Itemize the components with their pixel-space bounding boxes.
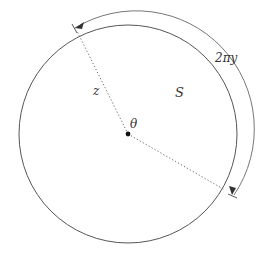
tick-start: [72, 24, 77, 33]
circle-diagram: z S θ 2πy: [0, 0, 258, 258]
arrowhead-start: [75, 22, 84, 29]
radius-line-1: [77, 31, 128, 134]
arc-length-label: 2πy: [214, 51, 238, 65]
region-label: S: [175, 85, 184, 100]
radius-line-2: [128, 134, 225, 190]
arc-length-arrow: [75, 11, 254, 195]
angle-label: θ: [130, 117, 138, 131]
center-point: [126, 132, 131, 137]
radius-label: z: [92, 84, 100, 98]
tick-end: [228, 194, 237, 198]
